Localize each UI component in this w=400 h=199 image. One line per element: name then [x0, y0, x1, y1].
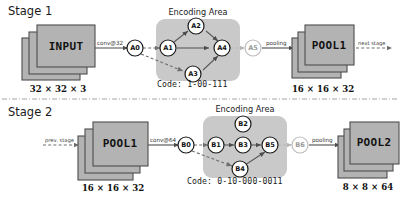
stage-2-node-B2[interactable]: B2	[235, 116, 251, 132]
figure-canvas: Stage 1 INPUT 32 × 32 × 3 conv@32 Encodi…	[0, 0, 400, 199]
stage-2-node-B6[interactable]: B6	[292, 137, 308, 153]
stage-2-input-block: POOL1	[78, 122, 148, 180]
stage-1-input-block-name: INPUT	[49, 40, 84, 53]
stage-1-node-A5[interactable]: A5	[245, 40, 261, 56]
stage-1-conv-label: conv@32	[97, 40, 123, 46]
stage-2-node-B2-label: B2	[238, 120, 248, 128]
stage-2-conv-label: conv@64	[150, 137, 177, 143]
stage-2-output-block-name: POOL2	[357, 136, 392, 149]
stage-2-node-B4-label: B4	[235, 165, 245, 173]
stage-2-input-block-name: POOL1	[103, 137, 138, 150]
stage-1-node-A1[interactable]: A1	[160, 40, 176, 56]
stage-2-node-B5[interactable]: B5	[262, 137, 278, 153]
stage-1-output-block-name: POOL1	[312, 39, 347, 52]
stage-1-label: Stage 1	[8, 4, 52, 18]
stage-2-prev-stage-label: prev. stage	[45, 137, 74, 144]
stage-2-input-dims: 16 × 16 × 32	[82, 183, 144, 193]
stage-2-label: Stage 2	[8, 105, 52, 119]
stage-1-next-stage-label: next stage	[358, 40, 386, 47]
stage-1-node-A3-label: A3	[188, 70, 198, 78]
diagram-svg: Stage 1 INPUT 32 × 32 × 3 conv@32 Encodi…	[0, 0, 400, 199]
stage-1-node-A0[interactable]: A0	[127, 40, 143, 56]
stage-2-encoding-area-title: Encoding Area	[215, 104, 274, 114]
stage-1-pooling-label: pooling	[266, 40, 287, 47]
stage-2-node-B3-label: B3	[238, 141, 248, 149]
stage-2-code: Code: 0-10-000-0011	[187, 176, 283, 186]
stage-1-node-A2-label: A2	[191, 22, 201, 30]
stage-1-code: Code: 1-00-111	[157, 79, 227, 89]
stage-1-output-block: POOL1	[292, 25, 354, 78]
stage-1-output-dims: 16 × 16 × 32	[292, 84, 354, 94]
stage-2-node-B4[interactable]: B4	[232, 161, 248, 177]
stage-1-node-A5-label: A5	[248, 44, 258, 52]
stage-2-pooling-label: pooling	[312, 137, 333, 144]
stage-1-node-A4-label: A4	[217, 44, 227, 52]
stage-2-node-B1-label: B1	[211, 141, 221, 149]
stage-2-node-B3[interactable]: B3	[235, 137, 251, 153]
stage-1-node-A1-label: A1	[163, 44, 173, 52]
stage-2-node-B1[interactable]: B1	[208, 137, 224, 153]
stage-2-output-dims: 8 × 8 × 64	[343, 182, 393, 192]
stage-1-node-A0-label: A0	[130, 44, 140, 52]
stage-1-input-block: INPUT	[22, 25, 95, 80]
stage-2-output-block: POOL2	[338, 122, 399, 178]
stage-2-node-B0[interactable]: B0	[178, 137, 194, 153]
stage-2-node-B6-label: B6	[295, 141, 305, 149]
stage-2-node-B5-label: B5	[265, 141, 275, 149]
stage-1-node-A2[interactable]: A2	[188, 18, 204, 34]
stage-1-node-A4[interactable]: A4	[214, 40, 230, 56]
stage-1-encoding-area-title: Encoding Area	[168, 7, 227, 17]
stage-1-input-dims: 32 × 32 × 3	[30, 84, 86, 94]
stage-2-node-B0-label: B0	[181, 141, 191, 149]
